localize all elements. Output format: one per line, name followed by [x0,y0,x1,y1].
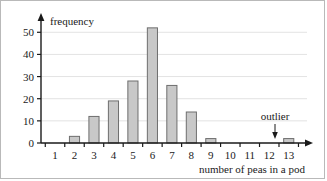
x-tick-label-7: 7 [169,149,175,161]
x-tick-label-10: 10 [225,149,237,161]
x-axis-arrowhead [305,140,313,147]
x-tick-label-4: 4 [111,149,117,161]
y-axis-arrowhead [38,13,45,21]
bar-5 [128,81,138,143]
x-tick-label-5: 5 [130,149,136,161]
bar-6 [147,28,157,143]
bar-group [69,28,293,143]
x-tick-label-11: 11 [244,149,255,161]
bar-8 [186,112,196,143]
y-axis-title: frequency [50,15,94,27]
x-tick-label-1: 1 [52,149,58,161]
x-tick-label-8: 8 [189,149,195,161]
y-tick-label-40: 40 [23,48,35,60]
bar-4 [108,101,118,143]
outlier-annotation: outlier [261,110,290,139]
y-tick-label-50: 50 [23,26,35,38]
y-tick-label-30: 30 [23,71,35,83]
outlier-label: outlier [261,110,290,122]
x-tick-label-2: 2 [72,149,78,161]
x-tick-label-9: 9 [208,149,214,161]
x-tick-label-group: 12345678910111213 [52,149,294,161]
outlier-arrow-head [272,132,278,139]
bar-3 [89,116,99,143]
x-tick-label-13: 13 [283,149,295,161]
x-axis-title: number of peas in a pod [199,163,305,175]
x-tick-label-6: 6 [150,149,156,161]
y-tick-label-20: 20 [23,93,35,105]
bar-7 [167,85,177,143]
histogram-figure: 01020304050 12345678910111213 frequency … [0,0,325,179]
y-tick-label-0: 0 [29,137,35,149]
chart-canvas: 01020304050 12345678910111213 frequency … [1,1,326,180]
y-tick-label-10: 10 [23,115,35,127]
y-tick-label-group: 01020304050 [23,26,35,149]
bar-2 [69,136,79,143]
x-tick-label-12: 12 [264,149,275,161]
x-tick-label-3: 3 [91,149,97,161]
